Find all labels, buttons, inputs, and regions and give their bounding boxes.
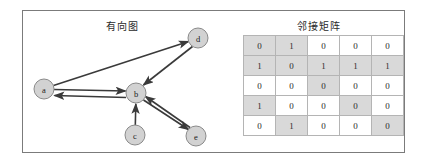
graph-node-b[interactable]: b <box>126 83 146 103</box>
matrix-cell-0-1: 1 <box>276 36 308 56</box>
graph-node-e[interactable]: e <box>186 126 206 146</box>
figure-root: 有向图 a <box>0 0 427 165</box>
matrix-cell-3-4: 0 <box>372 96 404 116</box>
matrix-cell-0-3: 0 <box>340 36 372 56</box>
node-c-label: c <box>133 131 137 141</box>
table-row: 0 1 0 0 0 <box>244 116 404 136</box>
graph-node-c[interactable]: c <box>125 125 145 145</box>
edge-e-to-b <box>146 97 191 128</box>
matrix-cell-0-4: 0 <box>372 36 404 56</box>
node-a-label: a <box>42 85 46 95</box>
directed-graph-svg: a b c d e <box>22 10 222 153</box>
matrix-cell-4-4: 0 <box>372 116 404 136</box>
edge-b-to-e <box>144 100 189 130</box>
matrix-cell-4-2: 0 <box>308 116 340 136</box>
node-b-label: b <box>134 89 138 99</box>
directed-graph-panel: 有向图 a <box>22 10 222 153</box>
matrix-cell-3-3: 0 <box>340 96 372 116</box>
adjacency-matrix-panel: 邻接矩阵 0 1 0 0 0 1 0 1 1 1 0 <box>232 10 405 153</box>
edge-a-to-d <box>54 42 189 86</box>
matrix-cell-1-1: 0 <box>276 56 308 76</box>
table-row: 1 0 0 0 0 <box>244 96 404 116</box>
matrix-cell-3-1: 0 <box>276 96 308 116</box>
node-e-label: e <box>194 132 198 142</box>
edge-b-to-a <box>55 96 127 98</box>
matrix-cell-1-4: 1 <box>372 56 404 76</box>
matrix-cell-1-0: 1 <box>244 56 276 76</box>
matrix-cell-3-0: 1 <box>244 96 276 116</box>
matrix-cell-0-2: 0 <box>308 36 340 56</box>
adjacency-matrix-table: 0 1 0 0 0 1 0 1 1 1 0 0 0 0 <box>243 35 404 136</box>
matrix-cell-2-1: 0 <box>276 76 308 96</box>
table-row: 0 0 0 0 0 <box>244 76 404 96</box>
adjacency-matrix-title: 邻接矩阵 <box>232 18 405 33</box>
graph-node-a[interactable]: a <box>34 79 54 99</box>
matrix-cell-0-0: 0 <box>244 36 276 56</box>
matrix-cell-2-4: 0 <box>372 76 404 96</box>
matrix-cell-3-2: 0 <box>308 96 340 116</box>
edge-d-to-b <box>144 47 193 86</box>
matrix-cell-1-2: 1 <box>308 56 340 76</box>
matrix-cell-4-0: 0 <box>244 116 276 136</box>
matrix-cell-2-0: 0 <box>244 76 276 96</box>
edge-a-to-b <box>54 90 126 92</box>
graph-node-d[interactable]: d <box>188 28 208 48</box>
matrix-cell-2-2: 0 <box>308 76 340 96</box>
matrix-cell-2-3: 0 <box>340 76 372 96</box>
matrix-cell-4-3: 0 <box>340 116 372 136</box>
edge-c-to-b <box>135 104 136 126</box>
matrix-cell-4-1: 1 <box>276 116 308 136</box>
table-row: 0 1 0 0 0 <box>244 36 404 56</box>
matrix-cell-1-3: 1 <box>340 56 372 76</box>
table-row: 1 0 1 1 1 <box>244 56 404 76</box>
